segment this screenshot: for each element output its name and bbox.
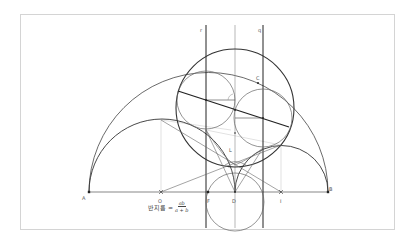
angle-mark: [228, 94, 233, 100]
label-c: C: [256, 75, 260, 81]
diameter-line: [178, 91, 289, 127]
right-semicircle: [235, 146, 328, 193]
label-l: L: [229, 147, 232, 153]
point-f-marker: [207, 191, 209, 193]
label-i: I: [280, 198, 281, 204]
right-twin-center: [262, 117, 264, 119]
left-semicircle: [89, 119, 235, 192]
label-r: r: [200, 27, 203, 33]
label-a: A: [82, 195, 86, 201]
large-semicircle: [89, 72, 328, 192]
point-d-marker: [234, 191, 236, 193]
label-b: B: [329, 186, 333, 192]
label-d: D: [232, 198, 236, 204]
label-q: q: [258, 27, 261, 34]
point-a-marker: [88, 191, 90, 193]
formula-lhs: 반지름 =: [148, 203, 173, 212]
formula-fraction: ab a + b: [175, 201, 189, 213]
big-circle-center: [234, 109, 236, 111]
axis-point: [234, 132, 236, 134]
point-c-marker: [257, 82, 259, 84]
formula-denominator: a + b: [175, 207, 189, 213]
radius-formula: 반지름 = ab a + b: [148, 201, 189, 213]
diagram-canvas: A O F D I B C L r q 반지름 = ab a + b: [0, 0, 417, 246]
label-f: F: [207, 198, 210, 204]
geometry-svg: A O F D I B C L r q: [0, 0, 417, 246]
left-twin-center: [205, 99, 207, 101]
